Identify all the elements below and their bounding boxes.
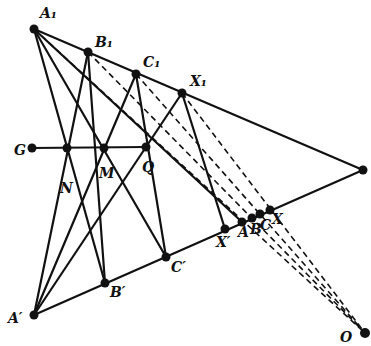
label-B1: B₁ xyxy=(94,34,113,50)
label-O: O xyxy=(340,329,353,345)
label-A1: A₁ xyxy=(38,5,57,21)
solid-line-A_prime-C1 xyxy=(34,74,136,315)
point-B_prime xyxy=(101,279,110,288)
point-A_prime xyxy=(30,311,39,320)
point-X1 xyxy=(178,89,187,98)
label-A: A xyxy=(236,224,249,240)
point-G xyxy=(28,144,37,153)
label-Q: Q xyxy=(142,159,154,175)
label-A_prime: A′ xyxy=(6,310,23,326)
solid-lines xyxy=(32,29,363,315)
point-M xyxy=(100,144,109,153)
solid-line-A1-P xyxy=(34,29,363,170)
point-Q xyxy=(142,143,151,152)
label-C_prime: C′ xyxy=(171,259,186,275)
label-C: C xyxy=(260,217,271,233)
label-C1: C₁ xyxy=(143,54,160,70)
point-A1 xyxy=(30,25,39,34)
point-labels: A₁B₁C₁X₁GNMQA′B′C′X′ABCXO xyxy=(6,5,353,345)
solid-line-A1-B_prime xyxy=(34,29,105,283)
label-X_prime: X′ xyxy=(215,234,231,250)
label-B_prime: B′ xyxy=(109,284,126,300)
point-O xyxy=(360,328,370,338)
label-M: M xyxy=(98,165,115,181)
label-X: X xyxy=(271,211,284,227)
dashed-line-C1-O xyxy=(136,74,365,333)
point-X_prime xyxy=(221,225,230,234)
point-C_prime xyxy=(162,253,171,262)
label-G: G xyxy=(14,142,26,158)
point-P xyxy=(359,166,368,175)
solid-line-G-Q xyxy=(32,147,146,148)
point-C1 xyxy=(132,70,141,79)
geometry-diagram: A₁B₁C₁X₁GNMQA′B′C′X′ABCXO xyxy=(0,0,371,346)
label-X1: X₁ xyxy=(189,73,207,89)
label-N: N xyxy=(59,180,74,196)
point-B1 xyxy=(84,48,93,57)
solid-line-X1-X_prime xyxy=(182,93,225,229)
point-N xyxy=(63,144,72,153)
